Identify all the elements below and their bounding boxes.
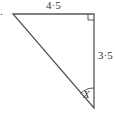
angle-label: X [82,88,91,100]
triangle [13,14,94,108]
right-side-label: 3·5 [98,49,113,61]
question-marker: . [0,5,3,17]
triangle-diagram: . 4·5 3·5 X [0,0,115,113]
right-angle-marker [88,14,94,20]
top-side-label: 4·5 [46,0,61,11]
